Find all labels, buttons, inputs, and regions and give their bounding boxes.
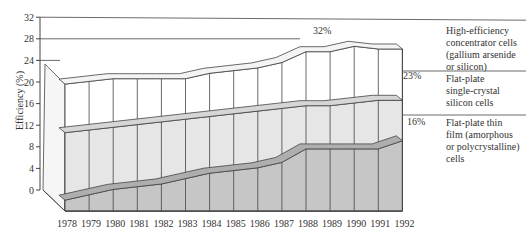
legend-line: Flat-plate (446, 73, 500, 85)
x-tick-label: 1979 (81, 218, 101, 229)
x-axis-ticks: 1978197919801981198219831984198519861987… (57, 218, 414, 229)
y-tick-label: 24 (24, 55, 34, 66)
legend-line: concentrator cells (446, 37, 517, 49)
single-crystal-end-pct: 23% (403, 70, 421, 81)
x-tick-label: 1988 (298, 218, 318, 229)
legend-line: silicon cells (446, 97, 500, 109)
y-tick-label: 20 (24, 77, 34, 88)
x-tick-label: 1986 (250, 218, 270, 229)
x-tick-label: 1984 (202, 218, 222, 229)
y-tick-label: 4 (29, 163, 34, 174)
x-tick-label: 1985 (226, 218, 246, 229)
y-tick-label: 32 (24, 12, 34, 23)
x-tick-label: 1980 (105, 218, 125, 229)
x-tick-label: 1982 (153, 218, 173, 229)
legend-thin-film-cells: Flat-plate thin film (amorphous or polyc… (446, 117, 520, 165)
legend-line: Flat-plate thin (446, 117, 520, 129)
x-tick-label: 1978 (57, 218, 77, 229)
x-tick-label: 1991 (370, 218, 390, 229)
y-tick-label: 8 (29, 141, 34, 152)
y-tick-label: 0 (29, 185, 34, 196)
x-tick-label: 1981 (129, 218, 149, 229)
x-tick-label: 1983 (178, 218, 198, 229)
legend-line: film (amorphous (446, 129, 520, 141)
x-tick-label: 1992 (394, 218, 414, 229)
legend-concentrator-cells: High-efficiency concentrator cells (gall… (446, 25, 517, 73)
legend-line: High-efficiency (446, 25, 517, 37)
concentrator-end-pct: 32% (313, 25, 331, 36)
legend-line: (gallium arsenide (446, 49, 517, 61)
x-tick-label: 1989 (322, 218, 342, 229)
ribbon-layers (43, 41, 402, 211)
legend-line: single-crystal (446, 85, 500, 97)
legend-single-crystal-cells: Flat-plate single-crystal silicon cells (446, 73, 500, 109)
y-tick-label: 16 (24, 98, 34, 109)
thin-film-end-pct: 16% (407, 116, 425, 127)
legend-line: cells (446, 153, 520, 165)
legend-line: or polycrystalline) (446, 141, 520, 153)
x-tick-label: 1987 (274, 218, 294, 229)
y-axis: 048121620242832 (24, 12, 40, 196)
y-tick-label: 12 (24, 120, 34, 131)
y-axis-label: Efficiency (%) (14, 66, 25, 136)
legend-line: or silicon) (446, 61, 517, 73)
y-tick-label: 28 (24, 33, 34, 44)
x-tick-label: 1990 (346, 218, 366, 229)
